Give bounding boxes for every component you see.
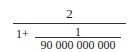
- main-fraction-bar: [13, 23, 126, 24]
- fraction-numerator: 2: [13, 7, 126, 20]
- inner-fraction-denominator: 90 000 000 000: [35, 39, 121, 51]
- denominator-prefix: 1+: [16, 28, 29, 40]
